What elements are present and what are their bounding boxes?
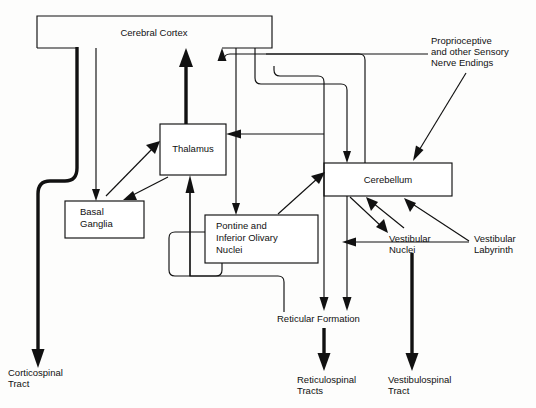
label-reticular-formation: Reticular Formation (277, 313, 360, 324)
connection-cortex-to-basal-ganglia (92, 48, 100, 201)
node-cerebral-cortex: Cerebral Cortex (37, 16, 272, 48)
label-reticular-formation-line1: Reticular Formation (277, 313, 360, 324)
connection-basal-ganglia-to-thalamus (106, 141, 160, 196)
label-vestibular-nuclei-line1: Vestibular (389, 233, 431, 244)
node-label-thalamus: Thalamus (172, 143, 214, 154)
node-label-cerebellum: Cerebellum (364, 174, 413, 185)
label-reticulospinal-tracts-line2: Tracts (297, 385, 323, 396)
label-vestibular-nuclei-line2: Nuclei (389, 244, 415, 255)
label-vestibular-labyrinth: Vestibular Labyrinth (474, 233, 516, 255)
connection-cerebellum-to-reticular-formation (343, 196, 352, 311)
label-proprioceptive-line2: and other Sensory (431, 46, 509, 57)
node-basal-ganglia: Basal Ganglia (65, 201, 144, 238)
label-corticospinal-tract-line1: Corticospinal (8, 367, 63, 378)
connection-thalamus-to-basal-ganglia (123, 177, 168, 200)
label-corticospinal-tract-line2: Tract (8, 378, 30, 389)
connection-reticular-formation-to-reticulospinal-tracts (318, 328, 331, 371)
label-vestibulospinal-tract-line1: Vestibulospinal (388, 374, 451, 385)
node-thalamus: Thalamus (160, 124, 226, 175)
diagram-canvas: Cerebral Cortex Thalamus Basal Ganglia P… (0, 0, 536, 408)
node-pontine-olivary: Pontine and Inferior Olivary Nuclei (205, 215, 318, 263)
connection-proprioceptive-to-cerebellum (266, 54, 466, 161)
connection-cortex-to-cerebellum (255, 48, 351, 163)
node-label-cerebral-cortex: Cerebral Cortex (120, 27, 187, 38)
connection-thalamus-to-cortex (179, 48, 193, 124)
label-reticulospinal-tracts-line1: Reticulospinal (297, 374, 356, 385)
connection-vestibular-nuclei-to-vestibulospinal-tract (406, 253, 419, 371)
node-label-pontine-line1: Pontine and (216, 220, 267, 231)
node-label-basal-ganglia-line2: Ganglia (80, 218, 113, 229)
motor-pathways-diagram: Cerebral Cortex Thalamus Basal Ganglia P… (0, 0, 536, 408)
label-reticulospinal-tracts: Reticulospinal Tracts (297, 374, 356, 396)
label-vestibulospinal-tract: Vestibulospinal Tract (388, 374, 451, 396)
label-corticospinal-tract: Corticospinal Tract (8, 367, 63, 389)
label-vestibulospinal-tract-line2: Tract (388, 385, 410, 396)
node-label-pontine-line2: Inferior Olivary (216, 232, 278, 243)
label-vestibular-labyrinth-line2: Labyrinth (474, 244, 513, 255)
label-proprioceptive-line1: Proprioceptive (431, 35, 492, 46)
connection-cerebellum-to-cortex (218, 48, 366, 163)
connection-cortex-to-reticular-formation (274, 66, 329, 311)
label-proprioceptive: Proprioceptive and other Sensory Nerve E… (431, 35, 509, 68)
node-label-basal-ganglia-line1: Basal (80, 206, 104, 217)
connection-cerebellum-to-thalamus (226, 130, 324, 139)
label-vestibular-nuclei: Vestibular Nuclei (389, 233, 431, 255)
node-cerebellum: Cerebellum (324, 163, 452, 196)
label-proprioceptive-line3: Nerve Endings (431, 57, 494, 68)
connection-pontine-olivary-to-cerebellum (278, 172, 325, 214)
label-vestibular-labyrinth-line1: Vestibular (474, 233, 516, 244)
node-label-pontine-line3: Nuclei (216, 244, 242, 255)
